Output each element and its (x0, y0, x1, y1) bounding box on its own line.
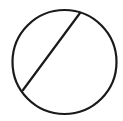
circle (13, 10, 117, 114)
chord-line (23, 13, 80, 90)
circle-chord-diagram (0, 0, 123, 121)
